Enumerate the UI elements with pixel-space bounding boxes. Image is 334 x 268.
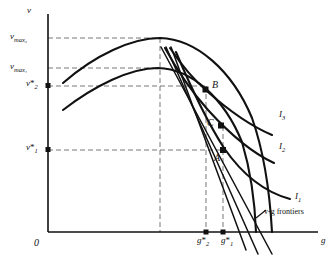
marker-A [220,147,226,153]
y-tick-v2star: v*2 [26,79,38,90]
origin-label: 0 [34,237,39,248]
y-tick-v1star-sub: 1 [35,147,38,154]
marker-B [203,87,209,93]
x-tick-g1star-sub: 1 [230,240,233,247]
marker-v2star [46,83,51,88]
y-tick-vmax1-sub: max₁ [14,66,27,73]
point-markers [46,83,227,235]
curve-label-I2-sub: 2 [282,146,285,153]
curve-label-I3: I3 [279,110,285,121]
frontier-upper [63,38,272,232]
indifference-curve-I1 [176,52,290,199]
marker-C [218,123,224,129]
x-tick-g2star-sub: 2 [206,240,209,247]
y-axis-label: v [27,6,31,15]
y-tick-v1star: v*1 [26,143,38,154]
point-label-B: B [212,79,218,90]
figure-canvas: v g 0 vmax₂ vmax₁ v*2 v*1 g*2 g*1 B C A … [0,0,334,268]
y-tick-vmax2: vmax₂ [10,32,27,43]
guide-lines [48,38,223,232]
x-axis-label: g [321,236,326,245]
frontiers-annotation: v-g frontiers [264,207,304,216]
marker-v1star [46,147,51,152]
y-tick-vmax1: vmax₁ [10,62,27,73]
y-tick-v2star-sub: 2 [35,83,38,90]
marker-g1star [221,230,226,235]
axes [48,14,318,232]
x-tick-g2star: g*2 [197,236,209,247]
point-label-C: C [207,117,214,128]
curve-label-I3-sub: 3 [282,114,285,121]
diagram-svg [0,0,334,268]
curve-label-I2: I2 [279,142,285,153]
curve-label-I1: I1 [295,192,301,203]
y-tick-vmax2-sub: max₂ [14,36,27,43]
curve-label-I1-sub: 1 [298,196,301,203]
point-label-A: A [214,152,220,163]
x-tick-g1star: g*1 [221,236,233,247]
marker-g2star [204,230,209,235]
